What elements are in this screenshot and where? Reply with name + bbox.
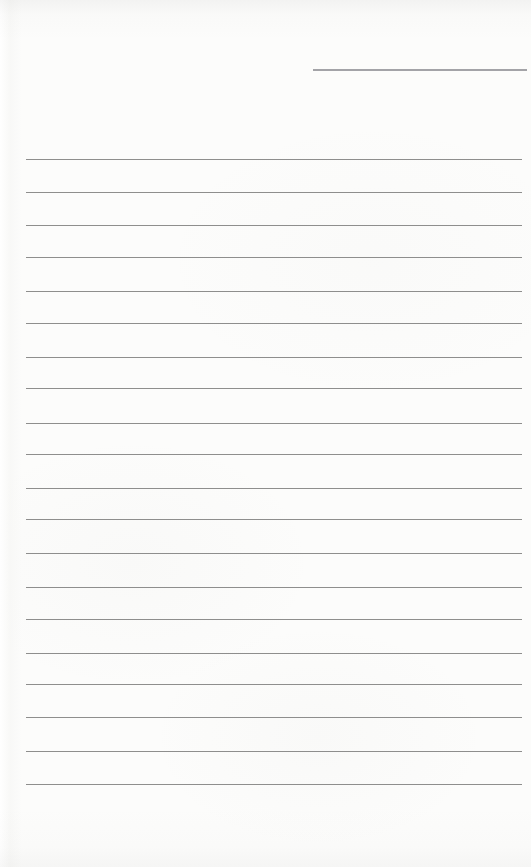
ruled-line <box>26 619 522 620</box>
ruled-line <box>26 784 522 785</box>
ruled-line <box>26 323 522 324</box>
ruled-line <box>26 454 522 455</box>
ruled-line <box>26 488 522 489</box>
ruled-line <box>26 751 522 752</box>
ruled-line <box>26 225 522 226</box>
ruled-line <box>26 587 522 588</box>
ruled-line <box>26 257 522 258</box>
ruled-line <box>26 519 522 520</box>
name-blank-line <box>313 69 527 71</box>
ruled-line <box>26 388 522 389</box>
ruled-line <box>26 553 522 554</box>
ruled-line <box>26 653 522 654</box>
ruled-line <box>26 291 522 292</box>
ruled-line <box>26 159 522 160</box>
ruled-line <box>26 717 522 718</box>
ruled-line <box>26 423 522 424</box>
scanned-lined-page <box>0 0 531 867</box>
ruled-line <box>26 684 522 685</box>
ruled-line <box>26 192 522 193</box>
ruled-line <box>26 357 522 358</box>
